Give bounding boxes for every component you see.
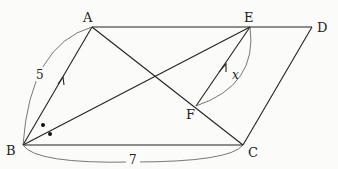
angle-dot-1 [41, 123, 45, 127]
length-label-bc: 7 [129, 153, 137, 167]
vertex-label-c: C [248, 145, 258, 160]
length-label-ab: 5 [36, 68, 44, 82]
vertex-label-f: F [186, 107, 195, 122]
geometry-diagram: 5 7 x A E D B C F [0, 0, 338, 169]
segment-cd [243, 27, 312, 145]
angle-dot-2 [48, 132, 52, 136]
vertex-label-d: D [317, 20, 327, 35]
vertex-label-a: A [82, 10, 93, 25]
angle-label-x: x [232, 68, 239, 82]
vertex-label-b: B [6, 143, 16, 158]
segment-ac [92, 27, 243, 145]
segment-fe [196, 27, 250, 106]
parallel-mark-fe [219, 64, 226, 72]
vertex-label-e: E [244, 10, 254, 25]
